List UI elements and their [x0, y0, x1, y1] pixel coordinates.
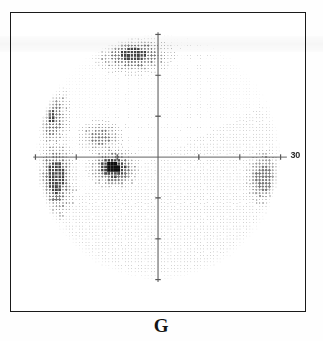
figure-caption: G: [0, 313, 323, 339]
plot-frame: 30: [10, 12, 306, 312]
visual-field-figure: 30 G: [0, 0, 323, 341]
grayscale-field-canvas: [11, 13, 305, 311]
axis-degree-label: 30: [291, 150, 300, 160]
